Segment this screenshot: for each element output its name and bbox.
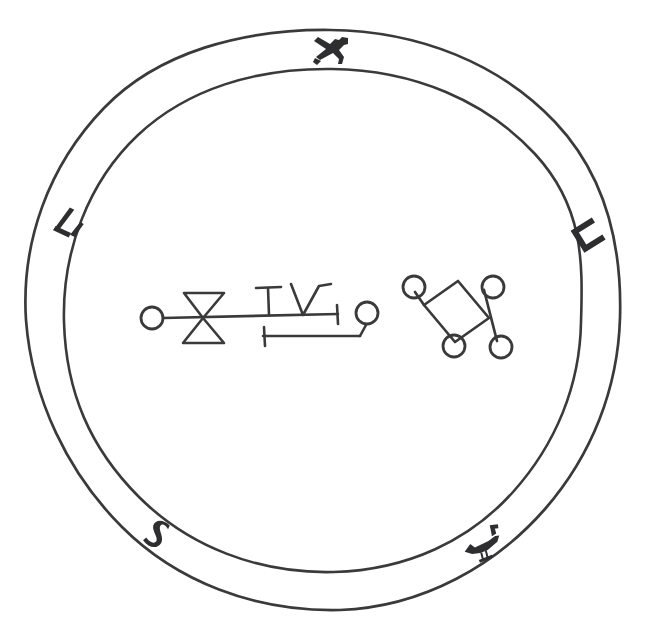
seal-drawing: [0, 0, 648, 640]
sigil-left-t-stem: [268, 288, 269, 315]
seal-artwork-container: [0, 0, 648, 640]
sigil-left-end-tick: [337, 305, 338, 324]
paper-background: [0, 0, 648, 640]
sigil-left-lower-bar-tick: [264, 327, 265, 346]
